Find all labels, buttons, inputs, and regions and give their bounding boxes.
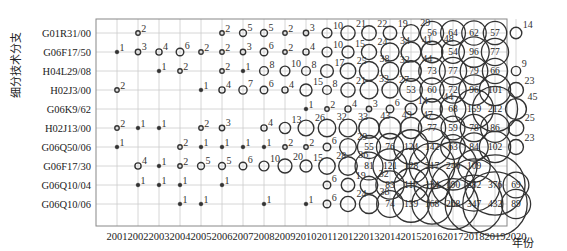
x-tick-label: 2005: [191, 231, 212, 242]
bubble-value-label: 6: [248, 154, 253, 165]
bubble-value-label: 2: [204, 118, 209, 129]
x-tick-label: 2012: [338, 231, 359, 242]
data-bubble: 3: [240, 41, 251, 54]
bubble-value-label: 2: [288, 23, 293, 34]
y-tick-label: G06F17/50: [43, 47, 91, 58]
bubble-value-label: 2: [183, 137, 188, 148]
bubble-value-label: 1: [225, 137, 230, 148]
y-tick-label: H02J13/00: [45, 123, 91, 134]
data-bubble: 4: [156, 41, 168, 55]
bubble-value-label: 212: [488, 104, 503, 114]
bubble-value-label: 6: [395, 97, 400, 108]
bubble-value-label: 1: [246, 61, 251, 72]
bubble-value-label: 20: [293, 151, 303, 162]
bubble-value-label: 3: [226, 117, 231, 128]
bubble-value-label: 159: [467, 104, 482, 114]
y-tick-label: H02J3/00: [50, 85, 91, 96]
y-axis-label: 细分技术分支: [10, 32, 23, 98]
bubble-value-label: 6: [185, 40, 190, 51]
x-tick-label: 2013: [359, 231, 380, 242]
x-tick-label: 2014: [380, 231, 402, 242]
bubble-value-label: 6: [269, 40, 274, 51]
bubble-value-label: 2: [330, 99, 335, 110]
bubble-value-label: 5: [247, 22, 252, 33]
bubble-value-label: 1: [204, 137, 209, 148]
bubble-value-label: 77: [490, 47, 500, 57]
x-tick-label: 2004: [170, 231, 192, 242]
bubble-value-label: 2: [183, 156, 188, 167]
data-bubble: 6: [239, 154, 253, 170]
x-tick-label: 2003: [149, 231, 170, 242]
data-bubble: 4: [345, 98, 357, 112]
bubble-value-label: 4: [226, 79, 231, 90]
bubble-value-label: 14: [523, 19, 533, 30]
data-bubble: 5: [219, 155, 232, 170]
bubble-value-label: 1: [162, 175, 167, 186]
data-bubble: 6: [260, 78, 274, 94]
data-bubble: 8: [323, 78, 338, 95]
data-bubble: 5: [198, 155, 211, 170]
bubble-value-label: 3: [373, 98, 378, 109]
bubble-value-label: 347: [467, 199, 482, 209]
bubble-value-label: 1: [183, 175, 188, 186]
data-bubble: 3: [135, 41, 146, 54]
bubble-value-label: 53: [406, 85, 416, 95]
x-tick-label: 2006: [212, 231, 233, 242]
bubble-value-label: 59: [448, 123, 458, 133]
data-bubble: 20: [278, 151, 303, 173]
data-bubble: 9: [511, 58, 526, 75]
x-axis-label: 年份: [512, 236, 534, 250]
bubble-value-label: 1: [162, 118, 167, 129]
bubble-value-label: 73: [427, 66, 437, 76]
bubble-value-label: 1: [183, 194, 188, 205]
bubble-value-label: 78: [469, 123, 479, 133]
y-tick-labels: G01R31/00G06F17/50H04L29/08H02J3/00G06K9…: [41, 28, 91, 210]
bubble-value-label: 2: [225, 23, 230, 34]
bubble-value-label: 2: [288, 42, 293, 53]
x-tick-labels: 2001200220032004200520062007200820092010…: [107, 231, 527, 242]
data-bubble: 8: [260, 59, 275, 76]
bubble-value-label: 48: [444, 33, 454, 44]
bubble-value-label: 10: [333, 39, 343, 50]
bubble-value-label: 268: [446, 199, 461, 209]
bubble-value-label: 60: [427, 85, 437, 95]
bubble-value-label: 26: [315, 112, 325, 123]
bubble-value-label: 54: [448, 47, 458, 57]
data-bubble: 3: [219, 117, 230, 130]
bubble-value-label: 2: [120, 118, 125, 129]
data-bubble: 26: [298, 112, 325, 136]
data-bubble: 6: [323, 173, 337, 189]
x-tick-label: 2009: [275, 231, 296, 242]
x-tick-label: 2007: [233, 231, 254, 242]
bubble-value-label: 32: [337, 111, 347, 122]
bubble-value-label: 21: [356, 75, 366, 86]
bubble-value-label: 1: [267, 194, 272, 205]
bubble-value-label: 4: [310, 41, 315, 52]
data-bubble: 4: [261, 117, 273, 131]
bubble-value-label: 19: [398, 18, 408, 29]
bubble-value-label: 23: [524, 132, 534, 143]
bubble-value-label: 8: [332, 78, 337, 89]
bubble-value-label: 96: [469, 47, 479, 57]
data-bubble: 6: [323, 192, 337, 208]
data-bubble: 4: [303, 41, 315, 55]
bubble-value-label: 124: [404, 142, 419, 152]
y-tick-label: G06Q10/04: [41, 180, 91, 191]
x-tick-label: 2010: [296, 231, 317, 242]
bubble-value-label: 1: [141, 175, 146, 186]
bubble-value-label: 45: [527, 91, 537, 102]
data-bubble: 14: [510, 19, 533, 39]
bubble-value-label: 23: [524, 75, 534, 86]
y-tick-label: G06Q50/06: [41, 142, 91, 153]
bubble-value-label: 376: [488, 180, 503, 190]
bubble-value-label: 5: [205, 155, 210, 166]
data-bubble: 24: [340, 188, 366, 211]
bubble-value-label: 77: [448, 66, 458, 76]
data-bubble: 10: [322, 39, 343, 57]
bubble-value-label: 4: [163, 41, 168, 52]
bubble-value-label: 3: [247, 41, 252, 52]
bubble-value-label: 1: [204, 80, 209, 91]
data-bubble: 10: [259, 153, 280, 171]
bubble-value-label: 57: [490, 28, 500, 38]
bubble-value-label: 3: [310, 22, 315, 33]
